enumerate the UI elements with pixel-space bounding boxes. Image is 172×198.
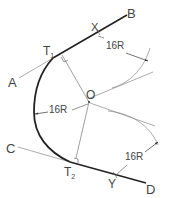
label-A: A [8, 75, 17, 90]
dim-leader-left [72, 104, 88, 110]
label-16R-left: 16R [49, 104, 67, 115]
label-16R-bottom: 16R [125, 151, 143, 162]
label-D: D [146, 182, 155, 197]
line-T1-B [53, 15, 127, 58]
dim-arrow-left [35, 112, 48, 114]
dim-leader-top [98, 36, 104, 38]
label-B: B [127, 6, 136, 21]
construction-line-lower [90, 103, 155, 126]
dim-arrow-top [126, 53, 148, 61]
construction-arc-lower [108, 111, 158, 145]
label-T1: T1 [43, 44, 54, 59]
label-T2: T2 [64, 165, 75, 180]
label-Y: Y [108, 177, 116, 191]
label-O: O [86, 88, 95, 102]
radius-O-T1 [62, 55, 89, 102]
dim-leader-bottom [116, 165, 127, 175]
right-angle-T2 [74, 158, 78, 163]
label-C: C [6, 141, 15, 156]
tangent-arc-diagram: B X T1 16R A O 16R C 16R T2 Y D [0, 0, 172, 198]
line-C-T2 [18, 147, 70, 162]
label-X: X [91, 21, 99, 33]
label-16R-top: 16R [106, 40, 124, 51]
radius-O-T2 [76, 102, 89, 158]
construction-line-upper [90, 72, 153, 98]
line-A-T1 [19, 58, 53, 78]
construction-arc-upper [112, 48, 150, 88]
dim-arrow-bottom [145, 142, 158, 152]
